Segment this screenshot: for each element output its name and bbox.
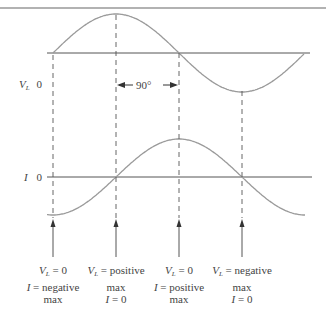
note-text: max: [233, 281, 252, 293]
i-axis-label: I 0: [24, 171, 42, 183]
vl-symbol: V: [19, 78, 26, 90]
marker-arrows: [53, 224, 242, 257]
phase-arrowhead-right: [170, 82, 178, 88]
note-text: max: [44, 293, 63, 305]
note-symbol: V: [165, 264, 172, 276]
note-symbol: V: [212, 264, 219, 276]
phase-arrowhead-left: [117, 82, 125, 88]
vl-subscript: L: [26, 84, 30, 92]
note-text: = 0: [235, 293, 252, 305]
note-text: = 0: [50, 264, 67, 276]
note-symbol: V: [39, 264, 46, 276]
marker-note-4: VL = negative max I = 0: [202, 264, 282, 306]
phase-angle-label: 90°: [136, 79, 151, 91]
note-text: = 0: [109, 293, 126, 305]
note-text: = positive: [158, 281, 205, 293]
note-text: = negative: [223, 264, 272, 276]
i-symbol: I: [24, 171, 28, 183]
marker-arrowheads: [51, 219, 245, 227]
i-zero-label: 0: [36, 171, 42, 183]
note-text: max: [107, 281, 126, 293]
note-text: = positive: [98, 264, 145, 276]
note-text: max: [170, 293, 189, 305]
note-text: = negative: [30, 281, 79, 293]
note-text: = 0: [176, 264, 193, 276]
vl-zero-label: 0: [36, 78, 42, 90]
vl-axis-label: VL 0: [19, 78, 42, 94]
